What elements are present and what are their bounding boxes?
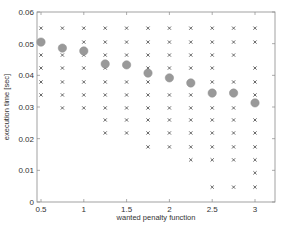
plot-area — [37, 12, 275, 202]
y-tick-label: 0 — [30, 198, 35, 207]
mean-circle-marker — [251, 99, 259, 107]
y-tick-label: 0.02 — [18, 135, 34, 144]
x-tick-label: 2.5 — [207, 205, 219, 214]
x-axis-label: wanted penalty function — [116, 213, 196, 222]
y-axis-label: execution time [sec] — [2, 74, 11, 140]
mean-circle-marker — [122, 61, 130, 69]
scatter-chart: 00.010.020.030.040.050.06 0.511.522.53 w… — [0, 0, 285, 227]
mean-circle-marker — [37, 38, 45, 46]
mean-circle-marker — [187, 79, 195, 87]
mean-circle-marker — [144, 69, 152, 77]
x-tick-label: 1 — [82, 205, 87, 214]
y-tick-label: 0.01 — [18, 166, 34, 175]
y-tick-label: 0.04 — [18, 71, 34, 80]
x-tick-label: 0.5 — [35, 205, 47, 214]
x-tick-label: 3 — [253, 205, 258, 214]
mean-circle-marker — [229, 89, 237, 97]
y-tick-label: 0.03 — [18, 103, 34, 112]
y-tick-label: 0.06 — [18, 8, 34, 17]
y-tick-label: 0.05 — [18, 40, 34, 49]
axes-frame — [37, 12, 275, 202]
mean-circle-marker — [80, 47, 88, 55]
mean-circle-marker — [58, 44, 66, 52]
mean-circle-marker — [208, 89, 216, 97]
mean-circle-marker — [165, 74, 173, 82]
mean-circle-marker — [101, 60, 109, 68]
